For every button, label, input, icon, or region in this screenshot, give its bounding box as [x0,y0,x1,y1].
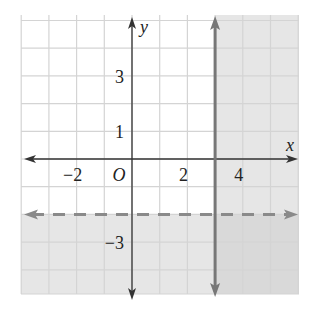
x-tick-label: 2 [179,165,188,185]
y-tick-label: 3 [115,67,124,87]
x-tick-label: 4 [234,165,243,185]
y-axis-label: y [138,17,148,37]
shade-y-lt-neg2 [21,214,215,294]
inequality-graph: −22431−3Oxy [0,0,309,314]
y-tick-label: 1 [115,122,124,142]
x-tick-label: −2 [63,165,82,185]
y-tick-label: −3 [105,233,124,253]
shade-overlap [215,214,299,294]
x-axis-label: x [285,135,294,155]
origin-label: O [113,165,126,185]
